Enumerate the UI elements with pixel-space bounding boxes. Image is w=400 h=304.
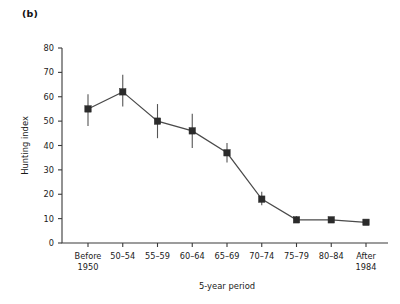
x-tick-label: 60–64 <box>180 251 205 261</box>
error-bars <box>88 75 297 222</box>
data-point-marker <box>363 219 369 225</box>
x-tick-label: 65–69 <box>215 251 240 261</box>
figure-panel-b: (b) 01020304050607080 Before195050–5455–… <box>0 0 400 304</box>
data-point-marker <box>259 196 265 202</box>
svg-text:75–79: 75–79 <box>284 251 309 261</box>
y-tick-label: 0 <box>49 238 54 248</box>
svg-text:65–69: 65–69 <box>215 251 240 261</box>
data-point-marker <box>154 118 160 124</box>
svg-text:50–54: 50–54 <box>110 251 135 261</box>
y-tick-label: 10 <box>44 214 54 224</box>
y-axis-title: Hunting index <box>20 116 30 175</box>
x-tick-label: 50–54 <box>110 251 135 261</box>
x-tick-label: 75–79 <box>284 251 309 261</box>
x-tick-label: Before1950 <box>75 251 102 272</box>
data-point-marker <box>224 150 230 156</box>
svg-text:1950: 1950 <box>78 262 99 272</box>
data-point-marker <box>293 217 299 223</box>
data-point-marker <box>189 128 195 134</box>
y-tick-label: 20 <box>44 189 54 199</box>
x-tick-label: 70–74 <box>249 251 274 261</box>
x-tick-label: After1984 <box>356 251 377 272</box>
x-tick-label: 80–84 <box>319 251 344 261</box>
x-tick-label: 55–59 <box>145 251 170 261</box>
svg-text:60–64: 60–64 <box>180 251 205 261</box>
axes <box>62 48 388 243</box>
y-tick-label: 80 <box>44 43 54 53</box>
y-axis-tick-labels: 01020304050607080 <box>44 43 54 248</box>
y-tick-label: 60 <box>44 92 54 102</box>
svg-text:1984: 1984 <box>356 262 377 272</box>
svg-text:After: After <box>356 251 376 261</box>
axis-titles: 5-year periodHunting index <box>20 116 255 291</box>
x-axis-title: 5-year period <box>199 281 255 291</box>
data-point-marker <box>328 217 334 223</box>
y-tick-label: 70 <box>44 67 54 77</box>
y-tick-label: 50 <box>44 116 54 126</box>
svg-text:55–59: 55–59 <box>145 251 170 261</box>
data-point-marker <box>120 89 126 95</box>
svg-text:Before: Before <box>75 251 102 261</box>
y-tick-label: 40 <box>44 141 54 151</box>
svg-text:80–84: 80–84 <box>319 251 344 261</box>
x-axis-tick-labels: Before195050–5455–5960–6465–6970–7475–79… <box>75 251 377 272</box>
data-point-marker <box>85 106 91 112</box>
y-tick-label: 30 <box>44 165 54 175</box>
hunting-index-line-chart: 01020304050607080 Before195050–5455–5960… <box>0 0 400 304</box>
tick-marks <box>58 48 366 247</box>
svg-text:70–74: 70–74 <box>249 251 274 261</box>
